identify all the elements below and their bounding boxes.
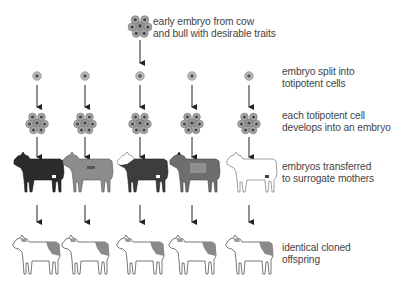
step-label-offspring-line2: offspring: [282, 254, 351, 266]
cloned-calf-icon: [169, 235, 216, 274]
column-1: [13, 72, 64, 274]
embryo-cluster-icon: [181, 113, 204, 134]
early-embryo-label-line2: and bull with desirable traits: [153, 28, 276, 40]
surrogate-cow-icon: [14, 152, 64, 192]
step-label-develop-line2: develops into an embryo: [282, 122, 391, 134]
single-cell-icon: [81, 72, 89, 80]
surrogate-cow-icon: [118, 152, 168, 192]
surrogate-cow-icon: [227, 152, 277, 192]
early-embryo-label-line1: early embryo from cow: [153, 16, 276, 28]
single-cell-icon: [33, 72, 41, 80]
step-label-develop: each totipotent cell develops into an em…: [282, 110, 391, 134]
single-cell-icon: [188, 72, 196, 80]
embryo-cluster-icon: [238, 113, 261, 134]
step-label-offspring: identical cloned offspring: [282, 242, 351, 266]
single-cell-icon: [245, 72, 253, 80]
cloning-diagram-graphics: [0, 0, 404, 283]
single-cell-icon: [136, 72, 144, 80]
step-label-offspring-line1: identical cloned: [282, 242, 351, 254]
column-4: [169, 72, 220, 274]
cloned-calf-icon: [62, 235, 109, 274]
cloned-calf-icon: [226, 235, 273, 274]
surrogate-cow-icon: [170, 152, 220, 192]
step-label-split-line1: embryo split into: [282, 66, 354, 78]
column-3: [117, 72, 168, 274]
column-2: [62, 72, 113, 274]
early-embryo-icon: [128, 16, 152, 38]
embryo-cluster-icon: [74, 113, 97, 134]
embryo-cluster-icon: [129, 113, 152, 134]
cloned-calf-icon: [117, 235, 164, 274]
column-5: [226, 72, 277, 274]
embryo-cluster-icon: [26, 113, 49, 134]
early-embryo-label: early embryo from cow and bull with desi…: [153, 16, 276, 40]
cloned-calf-icon: [13, 235, 60, 274]
step-label-transfer: embryos transferred to surrogate mothers: [282, 161, 374, 185]
step-label-transfer-line1: embryos transferred: [282, 161, 374, 173]
step-label-split: embryo split into totipotent cells: [282, 66, 354, 90]
step-label-transfer-line2: to surrogate mothers: [282, 173, 374, 185]
step-label-split-line2: totipotent cells: [282, 78, 354, 90]
step-label-develop-line1: each totipotent cell: [282, 110, 391, 122]
surrogate-cow-icon: [63, 152, 113, 192]
